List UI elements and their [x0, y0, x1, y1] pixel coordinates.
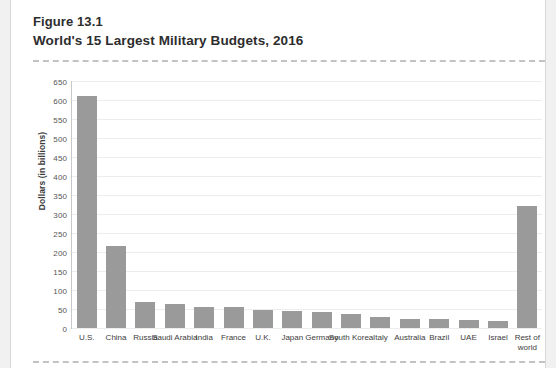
y-axis-tick-label: 100: [53, 287, 67, 296]
y-axis-tick-label: 250: [53, 230, 67, 239]
figure-header: Figure 13.1 World's 15 Largest Military …: [33, 12, 513, 50]
bar: [459, 320, 479, 328]
bar: [165, 304, 185, 328]
bar: [312, 312, 332, 328]
bar-chart: Dollars (in billions) 050100150200250300…: [23, 70, 547, 345]
bar: [253, 310, 273, 328]
dashed-divider-top: [33, 60, 545, 62]
y-axis-tick-label: 650: [53, 78, 67, 87]
y-axis-tick-label: 500: [53, 135, 67, 144]
bar: [400, 319, 420, 328]
bar: [341, 314, 361, 328]
gridline: 500: [72, 138, 542, 139]
plot-area: 050100150200250300350400450500550600650U…: [71, 81, 542, 329]
bar: [194, 307, 214, 328]
y-axis-tick-label: 600: [53, 97, 67, 106]
y-axis-tick-label: 200: [53, 249, 67, 258]
y-axis-tick-label: 300: [53, 211, 67, 220]
gridline: 250: [72, 233, 542, 234]
bar: [77, 96, 97, 328]
y-axis-tick-label: 350: [53, 192, 67, 201]
gridline: 150: [72, 271, 542, 272]
y-axis-tick-label: 550: [53, 116, 67, 125]
figure-page: Figure 13.1 World's 15 Largest Military …: [0, 0, 556, 368]
gridline: 450: [72, 157, 542, 158]
bar: [370, 317, 390, 328]
figure-title: World's 15 Largest Military Budgets, 201…: [33, 31, 513, 50]
y-axis-title: Dollars (in billions): [37, 116, 47, 226]
gridline: 300: [72, 214, 542, 215]
gridline: 400: [72, 176, 542, 177]
y-axis-tick-label: 450: [53, 154, 67, 163]
gridline: 100: [72, 290, 542, 291]
bar: [106, 246, 126, 328]
dashed-divider-bottom: [33, 361, 545, 363]
gridline: 550: [72, 119, 542, 120]
y-axis-tick-label: 400: [53, 173, 67, 182]
gridline: 200: [72, 252, 542, 253]
y-axis-tick-label: 50: [58, 306, 67, 315]
x-axis-tick-label: Rest of world: [504, 333, 550, 353]
bar: [429, 319, 449, 328]
gridline: 600: [72, 100, 542, 101]
y-axis-tick-label: 150: [53, 268, 67, 277]
bar: [488, 321, 508, 328]
bar: [282, 311, 302, 328]
bar: [135, 302, 155, 328]
gridline: 350: [72, 195, 542, 196]
figure-number: Figure 13.1: [33, 12, 513, 31]
bar: [224, 307, 244, 328]
bar: [517, 206, 537, 328]
gridline: 650: [72, 81, 542, 82]
gridline: 0: [72, 328, 542, 329]
figure-card: Figure 13.1 World's 15 Largest Military …: [10, 0, 546, 368]
